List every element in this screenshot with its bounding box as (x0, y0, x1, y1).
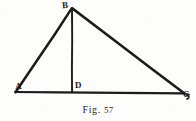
segment-ab (16, 9, 72, 93)
paper-speck (6, 14, 7, 15)
figure-caption-prefix: Fig. (83, 104, 101, 115)
triangle-diagram (0, 0, 196, 121)
figure-page: A B C D Fig. 57 (0, 0, 196, 121)
paper-speck (28, 68, 29, 69)
paper-speck (44, 106, 45, 107)
vertex-label-c: C (183, 90, 190, 100)
paper-speck (150, 22, 151, 23)
vertex-label-d: D (75, 81, 82, 90)
figure-caption: Fig. 57 (0, 104, 196, 116)
vertex-label-a: A (15, 82, 22, 91)
segment-ac (15, 92, 184, 93)
segment-bc (72, 8, 183, 92)
vertex-label-b: B (62, 1, 69, 10)
paper-speck (168, 110, 169, 111)
figure-caption-number: 57 (104, 105, 114, 115)
